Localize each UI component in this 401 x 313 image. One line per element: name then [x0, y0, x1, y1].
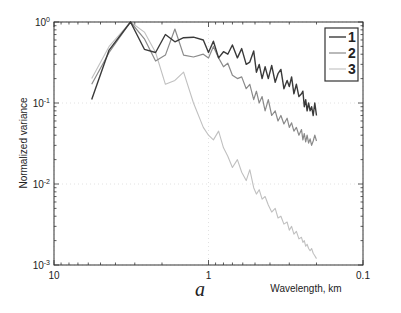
y-axis-title: Normalized variance	[18, 97, 29, 189]
x-tick-labels: 1010.1	[48, 270, 370, 281]
legend-label-3: 3	[348, 61, 356, 77]
panel-label: a	[195, 278, 205, 300]
x-tick-label: 1	[206, 270, 212, 281]
series-line-1	[92, 22, 317, 116]
y-tick-label: 100	[35, 16, 50, 28]
legend-label-2: 2	[348, 45, 356, 61]
y-tick-labels: 10010-110-210-3	[33, 16, 50, 271]
data-series	[92, 22, 317, 259]
series-line-3	[92, 22, 317, 259]
legend-label-1: 1	[348, 29, 356, 45]
variance-chart: 10010-110-210-3 1010.1 Normalized varian…	[0, 0, 401, 313]
y-tick-label: 10-1	[33, 97, 50, 109]
x-tick-label: 10	[48, 270, 60, 281]
y-tick-label: 10-2	[33, 178, 50, 190]
x-tick-label: 0.1	[356, 270, 370, 281]
legend: 123	[325, 28, 358, 81]
x-axis-title: Wavelength, km	[270, 283, 341, 294]
